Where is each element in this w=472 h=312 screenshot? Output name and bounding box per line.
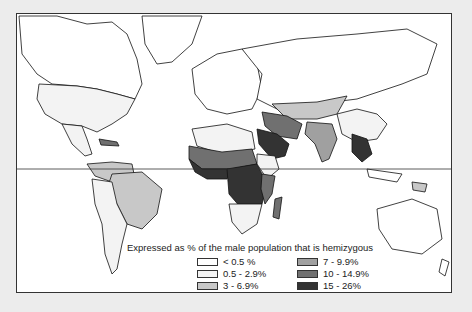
legend-item-10-14-9: 10 - 14.9% (297, 268, 369, 279)
region-southern-africa (229, 204, 262, 234)
region-mexico (62, 124, 92, 156)
region-papua (412, 182, 427, 192)
region-madagascar (273, 197, 282, 219)
world-map-panel: Expressed as % of the male population th… (16, 13, 452, 293)
region-indonesia (367, 169, 402, 182)
region-australia (377, 199, 442, 254)
legend-swatch (197, 282, 218, 290)
legend-title: Expressed as % of the male population th… (127, 242, 373, 253)
legend-label: 7 - 9.9% (323, 256, 358, 267)
legend-label: < 0.5 % (223, 256, 255, 267)
legend-label: 0.5 - 2.9% (223, 268, 266, 279)
region-india (305, 122, 337, 162)
legend-item-0-5-2-9: 0.5 - 2.9% (197, 268, 266, 279)
legend-label: 15 - 26% (323, 280, 361, 291)
legend-item-15-26: 15 - 26% (297, 280, 361, 291)
legend-swatch (197, 270, 218, 278)
region-russia (242, 29, 437, 109)
region-greenland (142, 16, 202, 64)
legend-label: 10 - 14.9% (323, 268, 369, 279)
legend-swatch (297, 258, 318, 266)
legend-item-3-6-9: 3 - 6.9% (197, 280, 258, 291)
legend-item-lt-0-5: < 0.5 % (197, 256, 255, 267)
legend-swatch (297, 270, 318, 278)
legend-item-7-9-9: 7 - 9.9% (297, 256, 358, 267)
legend-swatch (297, 282, 318, 290)
legend-swatch (197, 258, 218, 266)
legend-label: 3 - 6.9% (223, 280, 258, 291)
region-new-zealand (439, 259, 449, 276)
region-caribbean (99, 139, 119, 146)
